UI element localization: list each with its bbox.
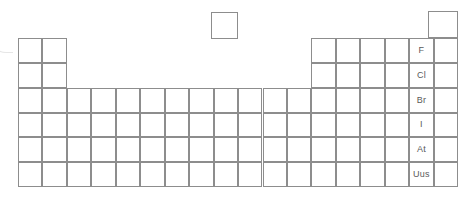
element-cell-empty[interactable] xyxy=(189,162,213,187)
element-cell-cl[interactable]: Cl xyxy=(409,63,433,88)
element-cell-empty[interactable] xyxy=(385,113,409,138)
scan-edge-artifact xyxy=(0,0,13,53)
element-cell-br[interactable]: Br xyxy=(409,88,433,113)
element-cell-empty[interactable] xyxy=(385,88,409,113)
element-cell-empty[interactable] xyxy=(67,88,91,113)
element-cell-empty[interactable] xyxy=(214,162,238,187)
element-cell-empty[interactable] xyxy=(311,63,335,88)
element-cell-empty[interactable] xyxy=(116,162,140,187)
element-cell-empty[interactable] xyxy=(18,162,42,187)
element-cell-empty[interactable] xyxy=(360,137,384,162)
helium-box[interactable] xyxy=(428,11,458,38)
element-cell-empty[interactable] xyxy=(91,137,115,162)
element-cell-empty[interactable] xyxy=(116,88,140,113)
element-cell-f[interactable]: F xyxy=(409,38,433,63)
element-cell-empty[interactable] xyxy=(42,113,66,138)
element-cell-empty[interactable] xyxy=(287,88,311,113)
element-cell-i[interactable]: I xyxy=(409,113,433,138)
element-cell-empty[interactable] xyxy=(18,137,42,162)
element-cell-uus[interactable]: Uus xyxy=(409,162,433,187)
element-cell-empty[interactable] xyxy=(385,162,409,187)
element-cell-empty[interactable] xyxy=(238,162,262,187)
element-cell-empty[interactable] xyxy=(311,113,335,138)
element-cell-empty[interactable] xyxy=(91,113,115,138)
element-cell-empty[interactable] xyxy=(238,137,262,162)
element-cell-empty[interactable] xyxy=(336,113,360,138)
element-cell-empty[interactable] xyxy=(67,162,91,187)
element-cell-empty[interactable] xyxy=(311,137,335,162)
element-cell-empty[interactable] xyxy=(67,137,91,162)
element-cell-empty[interactable] xyxy=(140,113,164,138)
element-cell-empty[interactable] xyxy=(263,88,287,113)
periodic-table-diagram: FClBrIAtUus xyxy=(0,0,467,200)
element-cell-empty[interactable] xyxy=(140,162,164,187)
element-cell-empty[interactable] xyxy=(311,38,335,63)
element-cell-empty[interactable] xyxy=(336,137,360,162)
element-cell-empty[interactable] xyxy=(165,162,189,187)
element-cell-empty[interactable] xyxy=(360,38,384,63)
element-cell-empty[interactable] xyxy=(67,113,91,138)
element-cell-empty[interactable] xyxy=(263,162,287,187)
element-cell-empty[interactable] xyxy=(140,137,164,162)
element-cell-empty[interactable] xyxy=(189,88,213,113)
element-symbol: Br xyxy=(417,96,426,105)
element-cell-empty[interactable] xyxy=(385,38,409,63)
element-cell-empty[interactable] xyxy=(189,113,213,138)
element-cell-empty[interactable] xyxy=(311,88,335,113)
element-cell-at[interactable]: At xyxy=(409,137,433,162)
element-cell-empty[interactable] xyxy=(42,38,66,63)
element-cell-empty[interactable] xyxy=(434,162,458,187)
element-cell-empty[interactable] xyxy=(18,63,42,88)
element-cell-empty[interactable] xyxy=(116,137,140,162)
element-cell-empty[interactable] xyxy=(434,38,458,63)
element-cell-empty[interactable] xyxy=(42,88,66,113)
element-cell-empty[interactable] xyxy=(165,88,189,113)
element-cell-empty[interactable] xyxy=(336,38,360,63)
element-cell-empty[interactable] xyxy=(18,38,42,63)
element-cell-empty[interactable] xyxy=(165,113,189,138)
hydrogen-box[interactable] xyxy=(211,12,238,39)
element-cell-empty[interactable] xyxy=(91,162,115,187)
element-cell-empty[interactable] xyxy=(385,137,409,162)
element-cell-empty[interactable] xyxy=(360,162,384,187)
element-cell-empty[interactable] xyxy=(287,162,311,187)
element-cell-empty[interactable] xyxy=(238,88,262,113)
element-cell-empty[interactable] xyxy=(263,137,287,162)
element-cell-empty[interactable] xyxy=(18,88,42,113)
element-cell-empty[interactable] xyxy=(42,63,66,88)
element-cell-empty[interactable] xyxy=(214,137,238,162)
element-cell-empty[interactable] xyxy=(189,137,213,162)
element-cell-empty[interactable] xyxy=(91,88,115,113)
element-cell-empty[interactable] xyxy=(287,137,311,162)
element-cell-empty[interactable] xyxy=(287,113,311,138)
element-cell-empty[interactable] xyxy=(214,113,238,138)
element-cell-empty[interactable] xyxy=(140,88,164,113)
element-cell-empty[interactable] xyxy=(336,162,360,187)
element-cell-empty[interactable] xyxy=(434,113,458,138)
element-symbol: At xyxy=(417,145,426,154)
element-cell-empty[interactable] xyxy=(385,63,409,88)
element-cell-empty[interactable] xyxy=(263,113,287,138)
element-cell-empty[interactable] xyxy=(360,113,384,138)
element-symbol: Cl xyxy=(417,71,426,80)
element-cell-empty[interactable] xyxy=(360,88,384,113)
element-cell-empty[interactable] xyxy=(238,113,262,138)
element-cell-empty[interactable] xyxy=(116,113,140,138)
element-cell-empty[interactable] xyxy=(336,63,360,88)
element-cell-empty[interactable] xyxy=(434,63,458,88)
element-cell-empty[interactable] xyxy=(434,88,458,113)
element-symbol: I xyxy=(420,120,423,129)
element-cell-empty[interactable] xyxy=(214,88,238,113)
element-cell-empty[interactable] xyxy=(165,137,189,162)
element-cell-empty[interactable] xyxy=(42,162,66,187)
element-cell-empty[interactable] xyxy=(311,162,335,187)
element-cell-empty[interactable] xyxy=(42,137,66,162)
element-cell-empty[interactable] xyxy=(336,88,360,113)
element-cell-empty[interactable] xyxy=(360,63,384,88)
element-cell-empty[interactable] xyxy=(434,137,458,162)
element-cell-empty[interactable] xyxy=(18,113,42,138)
element-symbol: F xyxy=(419,46,425,55)
element-symbol: Uus xyxy=(413,170,430,179)
